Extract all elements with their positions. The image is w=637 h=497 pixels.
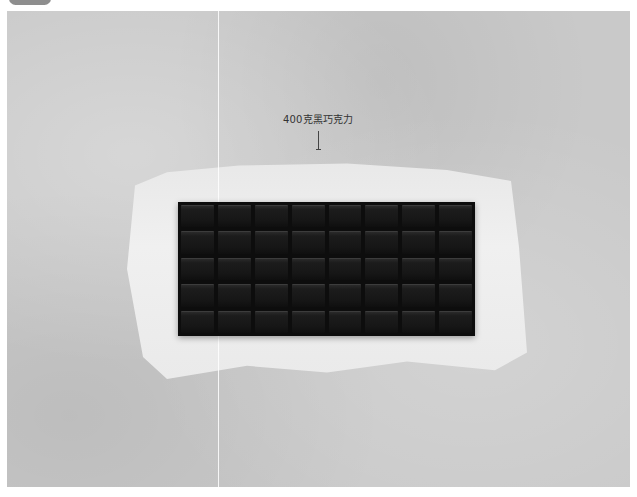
chocolate-square [255,311,288,333]
chocolate-square [365,258,398,280]
chocolate-square [365,205,398,227]
chocolate-square [255,231,288,253]
chocolate-square [181,258,214,280]
chocolate-square [218,205,251,227]
chocolate-bar [178,202,475,336]
chocolate-square [292,284,325,306]
chocolate-square [402,231,435,253]
chocolate-square [329,231,362,253]
chocolate-square [402,311,435,333]
chocolate-square [292,311,325,333]
chocolate-square [181,231,214,253]
chocolate-square [329,311,362,333]
chocolate-square [181,205,214,227]
chocolate-square [255,205,288,227]
chocolate-square [365,284,398,306]
corner-badge [9,0,51,5]
chocolate-square [402,284,435,306]
chocolate-square [402,258,435,280]
chocolate-square [329,205,362,227]
chocolate-square [218,311,251,333]
chocolate-square [439,231,472,253]
chocolate-square [181,311,214,333]
chocolate-square [439,258,472,280]
annotation-label: 400克黑巧克力 [283,111,354,126]
chocolate-square [292,258,325,280]
chocolate-square [329,284,362,306]
chocolate-square [439,284,472,306]
arrow-down-icon [318,131,319,149]
chocolate-square [218,231,251,253]
chocolate-square [402,205,435,227]
chocolate-square [439,205,472,227]
chocolate-square [218,284,251,306]
chocolate-square [181,284,214,306]
chocolate-square [292,205,325,227]
chocolate-square [439,311,472,333]
chocolate-square [292,231,325,253]
chocolate-square [218,258,251,280]
chocolate-square [255,258,288,280]
chocolate-square [329,258,362,280]
chocolate-square [365,231,398,253]
chocolate-square [255,284,288,306]
chocolate-square [365,311,398,333]
